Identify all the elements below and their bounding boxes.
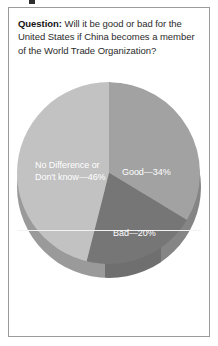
question-label: Question: — [18, 18, 62, 29]
question-text-block: Question: Will it be good or bad for the… — [18, 17, 202, 57]
pie-label-good: Good—34% — [122, 167, 202, 179]
screenshot-root: Question: Will it be good or bad for the… — [0, 0, 218, 346]
pie-label-bad: Bad—20% — [113, 228, 193, 240]
scan-artifact-mark — [29, 0, 35, 4]
pie-chart: No Difference or Don't know—46% Good—34%… — [9, 70, 209, 337]
survey-question-card: Question: Will it be good or bad for the… — [8, 7, 210, 337]
